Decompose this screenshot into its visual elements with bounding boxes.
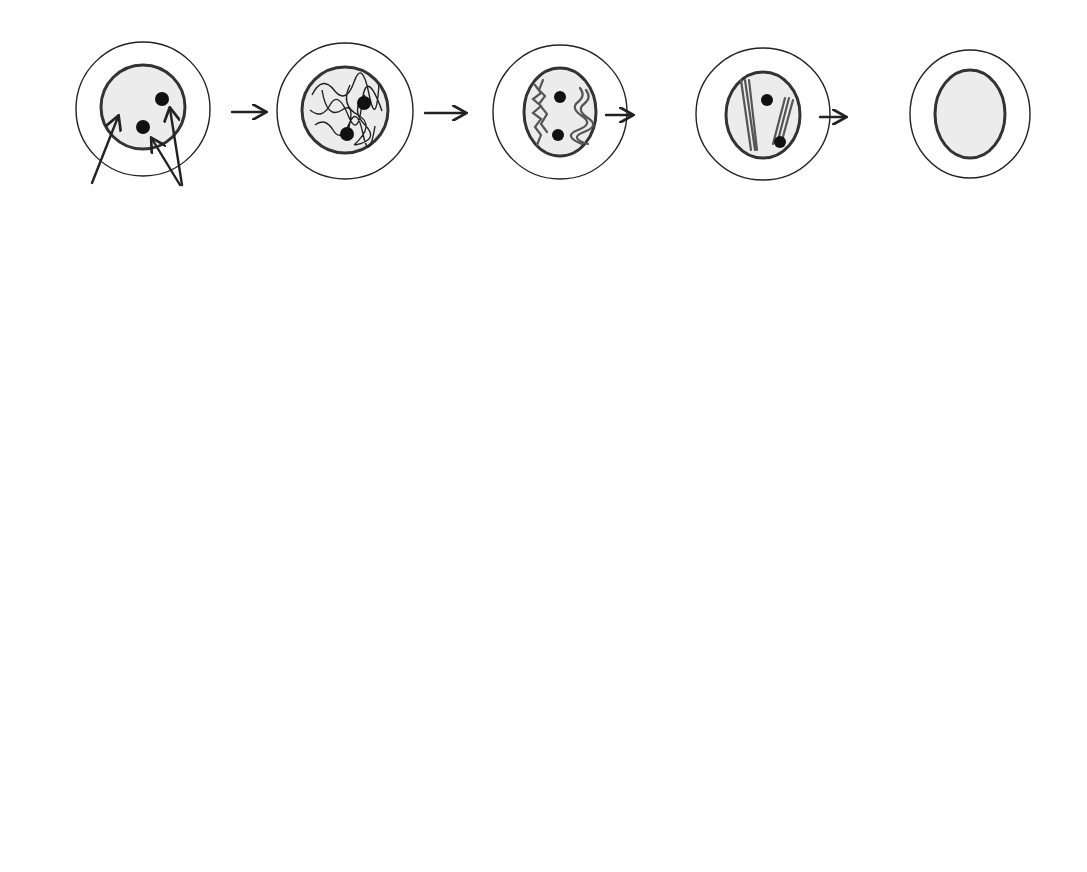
zygotene-cell [493,45,627,179]
pachytene-cell [696,48,830,180]
diplotene-cell [868,0,1030,178]
meiosis-diagram [0,0,1087,872]
interphase-cell [76,42,210,185]
leptotene-cell [277,43,413,179]
